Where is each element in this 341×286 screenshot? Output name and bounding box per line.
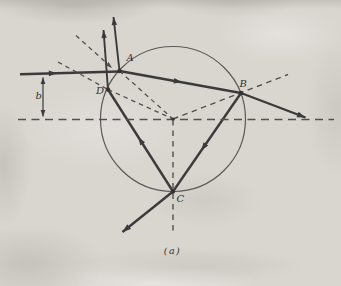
exit-ray-at-D xyxy=(104,30,109,90)
incident-ray xyxy=(20,72,120,75)
impact-parameter-measure-arrowhead xyxy=(41,78,46,85)
exit-ray-at-C xyxy=(123,192,174,233)
ray-diagram-svg: ABCDb(a) xyxy=(0,0,341,286)
surface-reflected-ray-at-A xyxy=(114,17,120,71)
exit-ray-at-B-arrowhead xyxy=(296,112,305,118)
point-dot-C xyxy=(171,189,175,193)
incident-ray-arrowhead xyxy=(49,71,57,77)
point-dot-B xyxy=(239,91,243,95)
point-label-D: D xyxy=(95,85,104,96)
impact-parameter-label: b xyxy=(36,90,42,101)
exit-ray-at-B xyxy=(241,93,306,118)
internal-ray-B-to-C xyxy=(173,93,241,192)
point-label-C: C xyxy=(177,193,185,204)
point-label-B: B xyxy=(239,78,247,89)
caption: (a) xyxy=(164,245,182,256)
radius-through-B-dashed xyxy=(173,75,288,120)
point-dot-D xyxy=(106,87,110,91)
impact-parameter-measure-arrowhead xyxy=(41,110,46,117)
point-dot-A xyxy=(117,69,121,73)
point-label-A: A xyxy=(126,52,134,63)
figure-page: ABCDb(a) xyxy=(0,0,341,286)
center-dot xyxy=(171,117,174,120)
